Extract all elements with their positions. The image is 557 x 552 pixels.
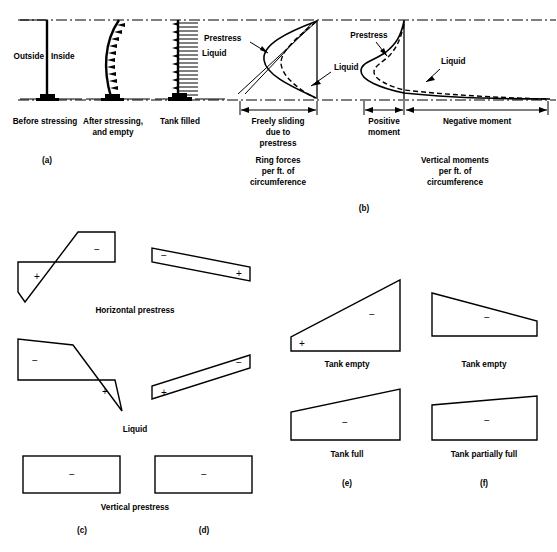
panel-a-reference-lines	[18, 20, 556, 100]
c-hp-polygon	[18, 232, 115, 302]
d-vp-sign: −	[201, 469, 207, 480]
dim-arrow-right	[308, 107, 316, 113]
label-horizontal-prestress: Horizontal prestress	[95, 306, 175, 315]
label-liquid-panel-c: Liquid	[123, 425, 148, 434]
ring-forces-caption-line2: per ft. of	[262, 167, 295, 176]
e-tank-full-sign: −	[342, 417, 348, 428]
caption-tank-filled: Tank filled	[160, 117, 200, 126]
vm-dim-arrow-pos-right	[395, 107, 403, 113]
c-hp-sign-right: −	[94, 244, 100, 255]
filled-liquid-pressure-hatch	[179, 23, 198, 95]
dim-label-line2: due to	[266, 128, 291, 137]
e-tank-full-shape: −	[291, 389, 400, 440]
label-liquid-ring: Liquid	[334, 63, 359, 72]
ring-forces-caption-line3: circumference	[250, 178, 306, 187]
vm-dim-arrow-neg-left	[406, 107, 414, 113]
d-liquid-shape: + −	[152, 355, 250, 399]
ring-forces-liquid-arrowhead	[311, 80, 321, 86]
caption-after-stressing-line1: After stressing,	[83, 117, 143, 126]
c-hp-sign-left: +	[34, 271, 40, 282]
label-liquid-vertical: Liquid	[441, 57, 466, 66]
vertical-moments-diagram: Prestress Liquid Positive moment N	[350, 20, 550, 187]
c-horizontal-prestress-shape: + −	[18, 232, 115, 302]
ring-forces-caption-line1: Ring forces	[255, 156, 300, 165]
c-vertical-prestress-shape: −	[23, 456, 120, 493]
label-tank-empty-f: Tank empty	[462, 360, 507, 369]
d-vertical-prestress-shape: −	[155, 456, 252, 493]
vm-dim-label-positive-line2: moment	[368, 128, 400, 137]
vm-caption-line3: circumference	[427, 178, 483, 187]
vm-caption-line2: per ft. of	[439, 167, 472, 176]
vm-dim-arrow-pos-left	[365, 107, 373, 113]
caption-after-stressing-line2: and empty	[93, 128, 134, 137]
figure-container: Outside Inside Before stressing	[0, 0, 557, 552]
label-prestress-vertical: Prestress	[350, 31, 388, 40]
ring-forces-diagram: Prestress Liquid Freely sliding due to p…	[204, 20, 359, 187]
panel-id-d: (d)	[199, 526, 210, 535]
c-liquid-sign-left: −	[32, 355, 38, 366]
panel-id-c: (c)	[77, 526, 87, 535]
engineering-figure: Outside Inside Before stressing	[0, 0, 557, 552]
e-tank-empty-shape: + −	[291, 280, 400, 351]
c-vp-sign: −	[69, 469, 75, 480]
ring-forces-liquid-curve	[281, 22, 316, 98]
panel-id-e: (e)	[342, 479, 352, 488]
d-hp-sign-right: +	[236, 268, 242, 279]
filled-prestress-barbs	[172, 22, 179, 90]
d-liquid-sign-right: −	[236, 357, 242, 368]
dim-label-line1: Freely sliding	[252, 117, 305, 126]
e-tank-empty-sign-minus: −	[369, 309, 375, 320]
label-liquid-tank-filled: Liquid	[202, 49, 227, 58]
before-footing	[36, 94, 59, 101]
c-liquid-polygon	[18, 339, 122, 411]
c-liquid-shape: − +	[18, 339, 122, 411]
vm-liquid-arrowhead	[426, 76, 435, 82]
label-vertical-prestress: Vertical prestress	[101, 503, 170, 512]
wall-after-stressing: After stressing, and empty	[83, 20, 150, 137]
panel-id-f: (f)	[480, 479, 488, 488]
vm-dim-arrow-neg-right	[539, 107, 547, 113]
vm-caption-line1: Vertical moments	[421, 156, 489, 165]
label-tank-empty-e: Tank empty	[325, 360, 370, 369]
wall-before-stressing: Outside Inside Before stressing	[13, 20, 82, 126]
ring-forces-sliding-line-2	[245, 22, 313, 94]
c-liquid-sign-right: +	[102, 386, 108, 397]
d-liquid-sign-left: +	[161, 387, 167, 398]
after-footing	[101, 94, 124, 101]
panel-id-a: (a)	[42, 156, 52, 165]
d-horizontal-prestress-shape: − +	[152, 248, 250, 281]
ring-forces-dimension	[240, 101, 317, 115]
f-tank-empty-sign: −	[484, 312, 490, 323]
label-inside: Inside	[51, 52, 75, 61]
filled-footing	[168, 93, 192, 101]
caption-before-stressing: Before stressing	[13, 117, 78, 126]
label-prestress-ring: Prestress	[204, 34, 242, 43]
label-tank-partially-full-f: Tank partially full	[451, 450, 518, 459]
dim-label-line3: prestress	[260, 139, 297, 148]
vm-dim-label-positive-line1: Positive	[368, 117, 400, 126]
after-wall-prestress-barbs	[107, 23, 125, 90]
e-tank-empty-sign-plus: +	[299, 338, 305, 349]
panel-id-b: (b)	[359, 204, 370, 213]
d-hp-sign-left: −	[161, 250, 167, 261]
e-tank-full-polygon	[291, 389, 400, 440]
f-tank-partially-full-sign: −	[484, 415, 490, 426]
e-tank-empty-polygon	[291, 280, 400, 351]
label-outside: Outside	[14, 52, 45, 61]
vertical-moments-dimensions	[364, 101, 548, 115]
f-tank-partially-full-shape: −	[432, 396, 537, 440]
f-tank-empty-shape: −	[432, 293, 537, 336]
ring-forces-prestress-curve	[264, 21, 317, 98]
vm-dim-label-negative: Negative moment	[443, 117, 512, 126]
dim-arrow-left	[241, 107, 249, 113]
label-tank-full-e: Tank full	[330, 450, 363, 459]
ring-forces-sliding-line-1	[238, 21, 317, 94]
